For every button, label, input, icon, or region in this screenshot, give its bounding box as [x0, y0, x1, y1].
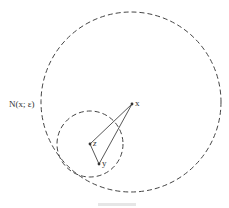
large-neighborhood-circle: [41, 12, 221, 192]
point-z: [89, 143, 92, 146]
point-x-label: x: [135, 99, 140, 108]
point-z-label: z: [93, 139, 97, 148]
caption-bar: [98, 203, 136, 206]
segment-x-y: [99, 104, 132, 164]
neighborhood-label: N(x; ε): [9, 100, 35, 109]
point-y: [98, 163, 101, 166]
point-x: [131, 103, 134, 106]
point-y-label: y: [102, 159, 107, 168]
